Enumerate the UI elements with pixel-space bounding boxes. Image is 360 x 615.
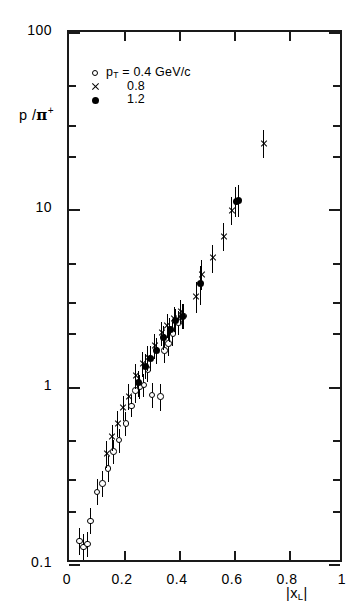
marker-cross xyxy=(220,233,228,241)
marker-cross xyxy=(260,140,268,148)
y-axis-title-main: p / xyxy=(19,107,36,123)
x-axis-title-main: |x xyxy=(286,585,298,601)
marker-open-circle xyxy=(157,393,164,400)
marker-open-circle xyxy=(116,437,123,444)
x-axis-title: |xL| xyxy=(286,585,308,602)
plot-area: pT = 0.4 GeV/c 0.8 1.2 xyxy=(67,30,342,562)
y-tick-label: 100 xyxy=(0,23,52,37)
marker-open-circle xyxy=(87,518,94,525)
x-tick-label: 1 xyxy=(317,572,360,586)
y-axis-title: p /π+ xyxy=(19,105,54,124)
x-tick-label: 0.2 xyxy=(97,572,147,586)
marker-open-circle xyxy=(149,392,156,399)
x-tick-label: 0.4 xyxy=(152,572,202,586)
marker-filled-circle xyxy=(147,355,154,362)
marker-filled-circle xyxy=(197,280,204,287)
marker-cross xyxy=(114,419,122,427)
y-tick-label: 0.1 xyxy=(0,555,52,569)
marker-cross xyxy=(108,433,116,441)
x-tick-label: 0 xyxy=(42,572,92,586)
x-tick-label: 0.6 xyxy=(207,572,257,586)
marker-cross xyxy=(209,254,217,262)
marker-filled-circle xyxy=(153,347,160,354)
marker-filled-circle xyxy=(160,334,167,341)
marker-filled-circle xyxy=(142,363,149,370)
pi-superscript: + xyxy=(48,105,54,116)
marker-open-circle xyxy=(123,420,130,427)
y-tick-label: 10 xyxy=(0,200,52,214)
data-points-layer xyxy=(69,32,340,560)
marker-open-circle xyxy=(99,480,106,487)
marker-filled-circle xyxy=(167,326,174,333)
x-tick-label: 0.8 xyxy=(262,572,312,586)
marker-open-circle xyxy=(94,489,101,496)
pi-symbol: π xyxy=(36,106,47,124)
figure-scatter-plot: p /π+ |xL| 1001010.1 00.20.40.60.81 pT =… xyxy=(0,0,360,615)
marker-cross xyxy=(103,449,111,457)
marker-cross xyxy=(119,404,127,412)
marker-open-circle xyxy=(84,541,91,548)
y-tick-label: 1 xyxy=(0,378,52,392)
marker-filled-circle xyxy=(235,197,242,204)
y-tick-major-right xyxy=(329,564,340,566)
x-axis-title-tail: | xyxy=(304,585,308,601)
marker-cross xyxy=(125,393,133,401)
marker-open-circle xyxy=(128,403,135,410)
y-tick-major xyxy=(69,564,80,566)
marker-filled-circle xyxy=(179,313,186,320)
